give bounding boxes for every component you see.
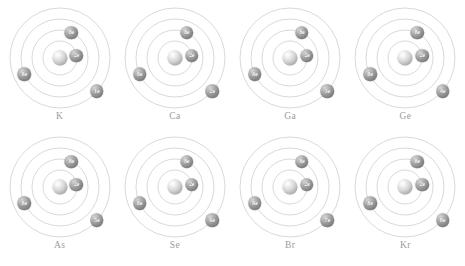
electron-count-label: 8e <box>440 217 446 223</box>
atom-cell-se: 2e8e8e6eSe <box>117 135 232 264</box>
electron-count-label: 2e <box>419 53 425 59</box>
electron-shell-3: 8e <box>248 68 262 82</box>
electron-count-label: 8e <box>252 71 258 77</box>
electron-shell-3: 8e <box>18 197 32 211</box>
electron-count-label: 6e <box>209 217 215 223</box>
electron-count-label: 8e <box>21 71 27 77</box>
electron-shell-4: 8e <box>436 214 450 228</box>
nucleus <box>283 180 298 195</box>
nucleus <box>398 180 413 195</box>
element-symbol-label: As <box>54 240 65 250</box>
element-symbol-label: Ga <box>284 111 296 121</box>
electron-count-label: 8e <box>137 71 143 77</box>
atom-diagram-br: 2e8e8e7e <box>238 135 342 239</box>
atom-cell-kr: 2e8e8e8eKr <box>348 135 463 264</box>
electron-count-label: 7e <box>324 217 330 223</box>
electron-count-label: 5e <box>94 217 100 223</box>
element-symbol-label: Se <box>170 240 180 250</box>
atom-cell-ge: 2e8e8e4eGe <box>348 6 463 135</box>
atom-cell-br: 2e8e8e7eBr <box>233 135 348 264</box>
atom-diagram-kr: 2e8e8e8e <box>353 135 457 239</box>
electron-shell-4: 6e <box>205 214 219 228</box>
atom-diagram-ge: 2e8e8e4e <box>353 6 457 110</box>
electron-shell-2: 8e <box>65 155 79 169</box>
electron-count-label: 3e <box>324 88 330 94</box>
electron-count-label: 2e <box>304 53 310 59</box>
electron-count-label: 2e <box>209 88 215 94</box>
nucleus <box>283 51 298 66</box>
electron-count-label: 4e <box>440 88 446 94</box>
electron-shell-2: 8e <box>295 26 309 40</box>
electron-shell-4: 2e <box>205 85 219 99</box>
element-symbol-label: Kr <box>400 240 411 250</box>
element-symbol-label: K <box>56 111 63 121</box>
electron-shell-2: 8e <box>295 155 309 169</box>
electron-count-label: 8e <box>69 30 75 36</box>
bohr-shell-diagram-figure: 2e8e8e1eK2e8e8e2eCa2e8e8e3eGa2e8e8e4eGe2… <box>0 0 465 266</box>
electron-shell-1: 2e <box>70 49 84 63</box>
electron-shell-1: 2e <box>300 49 314 63</box>
electron-count-label: 2e <box>304 182 310 188</box>
electron-count-label: 8e <box>414 159 420 165</box>
electron-count-label: 2e <box>189 182 195 188</box>
electron-count-label: 8e <box>69 159 75 165</box>
electron-shell-1: 2e <box>415 178 429 192</box>
electron-count-label: 8e <box>21 200 27 206</box>
element-symbol-label: Ge <box>399 111 411 121</box>
electron-shell-3: 8e <box>363 68 377 82</box>
electron-shell-2: 8e <box>180 26 194 40</box>
electron-count-label: 8e <box>299 159 305 165</box>
electron-shell-1: 2e <box>300 178 314 192</box>
electron-count-label: 8e <box>252 200 258 206</box>
nucleus <box>52 180 67 195</box>
element-symbol-label: Ca <box>169 111 180 121</box>
electron-shell-2: 8e <box>410 26 424 40</box>
electron-count-label: 8e <box>137 200 143 206</box>
electron-count-label: 1e <box>94 88 100 94</box>
atom-diagram-k: 2e8e8e1e <box>8 6 112 110</box>
electron-shell-2: 8e <box>180 155 194 169</box>
electron-shell-4: 3e <box>321 85 335 99</box>
electron-shell-3: 8e <box>363 197 377 211</box>
atom-grid: 2e8e8e1eK2e8e8e2eCa2e8e8e3eGa2e8e8e4eGe2… <box>0 0 465 266</box>
atom-cell-ga: 2e8e8e3eGa <box>233 6 348 135</box>
nucleus <box>398 51 413 66</box>
electron-shell-1: 2e <box>415 49 429 63</box>
electron-shell-2: 8e <box>410 155 424 169</box>
electron-count-label: 8e <box>299 30 305 36</box>
electron-shell-4: 7e <box>321 214 335 228</box>
electron-shell-1: 2e <box>185 178 199 192</box>
electron-count-label: 2e <box>74 53 80 59</box>
nucleus <box>52 51 67 66</box>
electron-count-label: 2e <box>419 182 425 188</box>
nucleus <box>167 180 182 195</box>
electron-count-label: 8e <box>367 71 373 77</box>
atom-diagram-ga: 2e8e8e3e <box>238 6 342 110</box>
electron-shell-3: 8e <box>248 197 262 211</box>
atom-cell-ca: 2e8e8e2eCa <box>117 6 232 135</box>
electron-count-label: 8e <box>414 30 420 36</box>
atom-cell-as: 2e8e8e5eAs <box>2 135 117 264</box>
electron-shell-3: 8e <box>133 197 147 211</box>
electron-shell-4: 5e <box>90 214 104 228</box>
electron-count-label: 2e <box>74 182 80 188</box>
atom-cell-k: 2e8e8e1eK <box>2 6 117 135</box>
atom-diagram-ca: 2e8e8e2e <box>123 6 227 110</box>
electron-shell-1: 2e <box>70 178 84 192</box>
element-symbol-label: Br <box>285 240 295 250</box>
electron-count-label: 8e <box>184 159 190 165</box>
electron-shell-2: 8e <box>65 26 79 40</box>
electron-count-label: 8e <box>184 30 190 36</box>
electron-shell-1: 2e <box>185 49 199 63</box>
nucleus <box>167 51 182 66</box>
atom-diagram-as: 2e8e8e5e <box>8 135 112 239</box>
atom-diagram-se: 2e8e8e6e <box>123 135 227 239</box>
electron-shell-3: 8e <box>18 68 32 82</box>
electron-count-label: 2e <box>189 53 195 59</box>
electron-count-label: 8e <box>367 200 373 206</box>
electron-shell-4: 4e <box>436 85 450 99</box>
electron-shell-3: 8e <box>133 68 147 82</box>
electron-shell-4: 1e <box>90 85 104 99</box>
